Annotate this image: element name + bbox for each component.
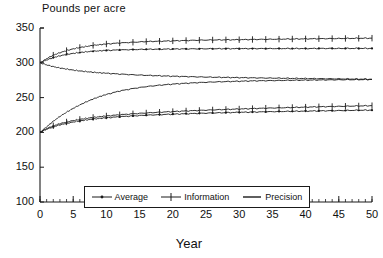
legend-marker-line-icon: [242, 192, 262, 202]
legend-marker-plus-icon: [161, 192, 181, 202]
legend-item-average: Average: [92, 192, 148, 202]
series-information-lower: [40, 102, 372, 132]
y-tick-label: 100: [0, 196, 34, 207]
x-tick-label: 5: [61, 209, 85, 220]
series-average-upper: [40, 47, 373, 62]
legend-item-precision: Precision: [242, 192, 302, 202]
x-axis-title: Year: [0, 236, 378, 251]
y-tick-label: 350: [0, 22, 34, 33]
legend-label-average: Average: [115, 192, 148, 202]
x-tick-label: 40: [294, 209, 318, 220]
legend-item-information: Information: [161, 192, 229, 202]
y-tick-label: 250: [0, 92, 34, 103]
y-tick-label: 300: [0, 57, 34, 68]
legend-label-precision: Precision: [265, 192, 302, 202]
y-tick-label: 200: [0, 126, 34, 137]
legend-marker-dot-icon: [92, 192, 112, 202]
x-tick-label: 50: [360, 209, 383, 220]
x-tick-label: 35: [260, 209, 284, 220]
x-tick-label: 10: [94, 209, 118, 220]
series-layer: [40, 35, 373, 132]
y-tick-label: 150: [0, 161, 34, 172]
axes-layer: [40, 28, 372, 202]
x-tick-label: 20: [161, 209, 185, 220]
series-average-lower: [40, 109, 373, 132]
series-precision-lower: [40, 79, 372, 132]
legend-label-information: Information: [184, 192, 229, 202]
x-tick-label: 15: [128, 209, 152, 220]
x-tick-label: 25: [194, 209, 218, 220]
series-precision-upper: [40, 63, 372, 80]
chart-legend: Average Information Precision: [84, 186, 310, 208]
x-tick-label: 45: [327, 209, 351, 220]
x-tick-label: 0: [28, 209, 52, 220]
x-tick-label: 30: [227, 209, 251, 220]
